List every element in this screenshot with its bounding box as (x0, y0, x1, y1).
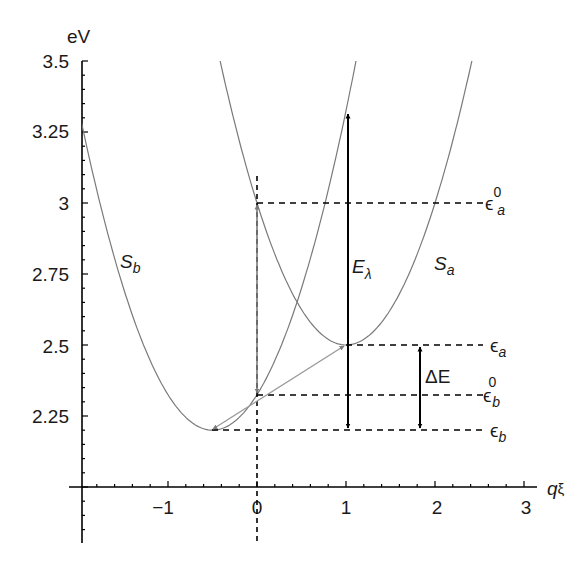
x-tick-minus1: −1 (152, 497, 174, 518)
y-tick-3: 3 (58, 193, 69, 214)
x-axis-label: qξ (547, 478, 565, 499)
label-eps-b0: ϵ0b (483, 374, 500, 410)
potential-energy-chart: eV 3.5 3.25 3 2.75 2.5 2.25 −1 0 1 2 3 q… (0, 0, 587, 567)
y-tick-3.25: 3.25 (32, 121, 69, 142)
label-eps-a0: ϵ0a (485, 184, 505, 218)
label-delta-E: ΔE (425, 366, 450, 387)
y-tick-2.5: 2.5 (43, 336, 69, 357)
label-Sb: Sb (120, 251, 141, 276)
curve-Sb (79, 0, 524, 430)
x-tick-2: 2 (432, 497, 443, 518)
x-tick-3: 3 (521, 497, 532, 518)
label-E-lambda: Eλ (352, 256, 372, 282)
x-tick-1: 1 (341, 497, 352, 518)
y-tick-3.5: 3.5 (43, 51, 69, 72)
curve-Sa (79, 0, 524, 345)
x-axis (69, 481, 537, 487)
y-tick-2.25: 2.25 (32, 406, 69, 427)
label-eps-a: ϵa (490, 335, 506, 360)
gray-diagonal-arrow (213, 346, 344, 429)
y-tick-2.75: 2.75 (32, 264, 69, 285)
y-axis-label: eV (67, 26, 91, 47)
label-eps-b: ϵb (490, 420, 506, 445)
label-Sa: Sa (434, 253, 455, 278)
y-axis (82, 61, 88, 543)
